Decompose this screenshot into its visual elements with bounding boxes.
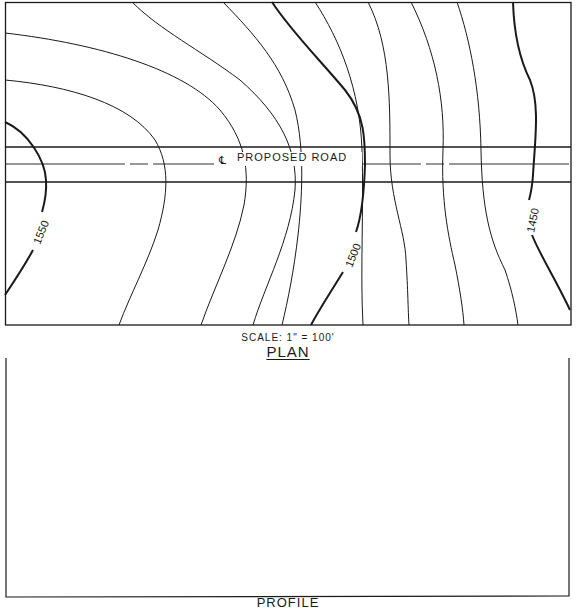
profile-border (6, 358, 569, 597)
contour-1500 (272, 2, 365, 232)
contour-1470 (411, 2, 464, 325)
road-label: PROPOSED ROAD (237, 151, 347, 163)
plan-title-text: PLAN (266, 343, 309, 360)
contour-1480 (368, 2, 409, 325)
profile-title: PROFILE (0, 595, 576, 610)
plan-title: PLAN (0, 343, 576, 360)
scale-note: SCALE: 1" = 100' (0, 332, 576, 343)
contour-1450 (513, 2, 536, 200)
contour-1540 (5, 80, 166, 325)
contour-label-1550: 1550 (31, 219, 51, 246)
contour-1500-lower (311, 272, 343, 325)
centerline-symbol: ℄ (218, 154, 227, 166)
contour-1450-lower (532, 235, 570, 310)
contour-label-1450: 1450 (524, 207, 541, 233)
contour-1530 (5, 33, 246, 325)
contour-1460 (457, 2, 518, 325)
contour-1550-lower (5, 250, 33, 295)
contour-1550 (5, 122, 46, 212)
contour-label-1500: 1500 (343, 242, 363, 269)
